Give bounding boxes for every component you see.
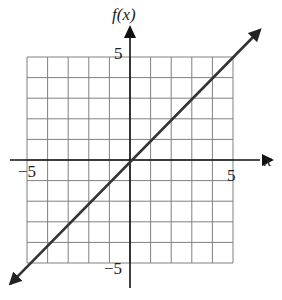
axes <box>10 25 274 288</box>
function-graph: f(x) x 5 −5 −5 5 <box>0 0 282 300</box>
y-axis-label: f(x) <box>112 5 136 24</box>
x-tick-left: −5 <box>18 162 36 181</box>
x-axis-label: x <box>263 151 272 170</box>
y-tick-top: 5 <box>114 44 123 63</box>
y-tick-bottom: −5 <box>104 259 122 278</box>
y-axis-arrow-icon <box>124 25 136 38</box>
x-tick-right: 5 <box>227 166 236 185</box>
